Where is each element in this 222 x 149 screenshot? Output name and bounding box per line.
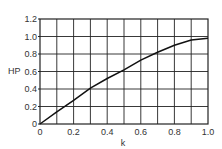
y-tick-label: 1.0 [24, 32, 37, 42]
y-axis-ticks: 00.20.40.60.81.01.2 [24, 14, 40, 129]
x-tick-label: 0 [37, 127, 42, 137]
y-tick-label: 0.4 [24, 84, 37, 94]
x-tick-label: 0.4 [101, 127, 114, 137]
y-tick-label: 0.6 [24, 67, 37, 77]
y-tick-label: 1.2 [24, 14, 37, 24]
y-tick-label: 0.2 [24, 102, 37, 112]
x-tick-label: 0.8 [168, 127, 181, 137]
y-tick-label: 0 [32, 119, 37, 129]
x-tick-label: 0.6 [135, 127, 148, 137]
x-tick-label: 0.2 [67, 127, 80, 137]
chart: 00.20.40.60.81.01.2 00.20.40.60.81.0 HP … [0, 0, 222, 149]
x-tick-label: 1.0 [202, 127, 215, 137]
x-axis-label: k [121, 138, 126, 148]
y-tick-label: 0.8 [24, 49, 37, 59]
grid-lines [40, 19, 208, 124]
x-axis-ticks: 00.20.40.60.81.0 [37, 127, 214, 137]
y-axis-label: HP [8, 66, 21, 76]
